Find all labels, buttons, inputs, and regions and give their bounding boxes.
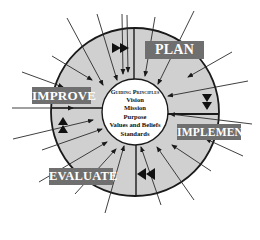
phase-label-implement: IMPLEMENT	[177, 124, 241, 140]
principle-mission: Mission	[100, 104, 170, 112]
principle-vision: Vision	[100, 96, 170, 104]
phase-label-evaluate: EVALUATE	[49, 168, 113, 185]
principle-purpose: Purpose	[100, 113, 170, 121]
phase-label-improve: IMPROVE	[32, 87, 91, 104]
guiding-principles-title: Guiding Principles	[100, 87, 170, 96]
principle-standards: Standards	[100, 130, 170, 138]
principle-values-beliefs: Values and Beliefs	[100, 121, 170, 129]
guiding-principles-text: Guiding Principles Vision Mission Purpos…	[100, 87, 170, 138]
phase-label-plan: PLAN	[145, 41, 204, 59]
